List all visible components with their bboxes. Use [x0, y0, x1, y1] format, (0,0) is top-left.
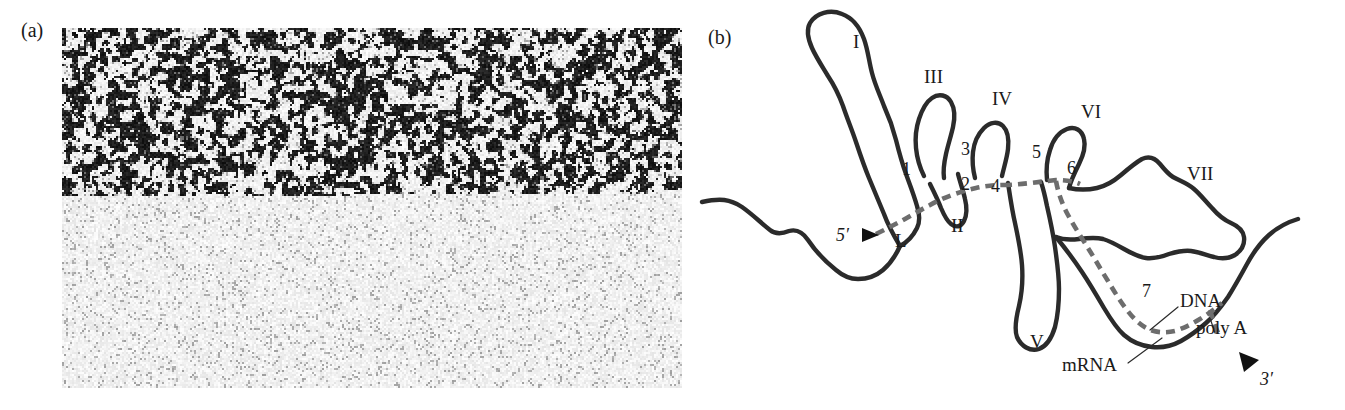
exon-label-2: 2 [961, 174, 970, 194]
exon-label-4: 4 [991, 176, 1000, 196]
panel-a-letter: (a) [21, 20, 43, 40]
loop-label-I: I [853, 31, 859, 52]
exon-label-1: 1 [902, 159, 911, 179]
loop-I [808, 12, 919, 246]
loop-label-III: III [924, 66, 943, 87]
dna-leader-line [1150, 307, 1178, 330]
exon-label-7: 7 [1142, 281, 1151, 301]
micrograph-image [62, 28, 682, 388]
loop-label-VI: VI [1081, 101, 1101, 122]
loop-label-II: II [951, 215, 964, 236]
loop-label-V: V [1030, 331, 1044, 352]
mrna-label: mRNA [1062, 354, 1117, 375]
leader-label: L [895, 230, 907, 251]
exon-label-5: 5 [1032, 142, 1041, 162]
three-prime-label: 3′ [1259, 369, 1274, 389]
loop-V [1008, 182, 1059, 350]
poly-a-label: poly A [1196, 317, 1247, 338]
exon-label-3: 3 [961, 139, 970, 159]
dna-label: DNA [1180, 290, 1221, 311]
three-prime-arrowhead [1239, 352, 1259, 372]
loop-label-IV: IV [992, 88, 1012, 109]
dna-left-tail [702, 200, 900, 279]
figure-root: (a) (b) [0, 0, 1345, 410]
panel-a-micrograph [62, 28, 682, 388]
five-prime-label: 5′ [836, 225, 850, 245]
panel-b-diagram: I II III IV V VI VII 1 2 3 4 5 6 7 5′ 3′… [690, 0, 1345, 410]
five-prime-arrowhead [862, 228, 879, 242]
loop-label-VII: VII [1187, 163, 1213, 184]
exon-label-6: 6 [1067, 158, 1076, 178]
loop-IV [973, 123, 1009, 178]
loop-III [916, 95, 955, 178]
